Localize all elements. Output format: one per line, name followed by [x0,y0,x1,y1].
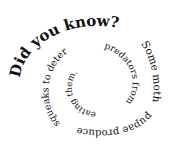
spiral-segment-5: predators from [103,41,140,107]
spiral-segment-1: Did you know? [6,12,121,79]
spiral-segment-4: squeaks to deter [39,45,69,129]
spiral-segment-2: Some moth [139,38,163,103]
spiral-text-graphic: Did you know? Some moth pupae produce sq… [0,0,174,150]
spiral-segment-6: eating them. [64,67,97,120]
